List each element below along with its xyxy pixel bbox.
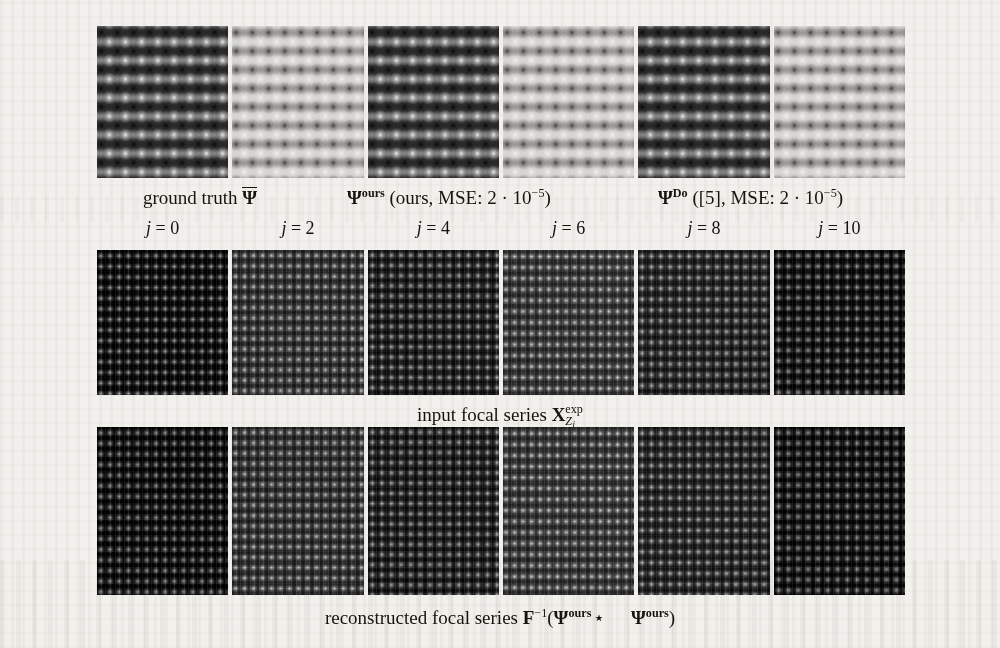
focal-index-label-j2: j = 2 xyxy=(232,218,363,239)
focal-index-label-j8: j = 8 xyxy=(638,218,769,239)
psi-symbol-term1: Ψ xyxy=(554,607,569,628)
operator-F-symbol: F xyxy=(523,607,535,628)
focal-index-label-row: j = 0 j = 2 j = 4 j = 6 j = 8 j = 10 xyxy=(97,218,905,239)
psi-symbol-ours: Ψ xyxy=(347,187,362,208)
grain-overlay xyxy=(503,250,634,395)
caption-ours-paren: (ours, MSE: 2 · 10 xyxy=(390,187,532,208)
psi-symbol-term2: Ψ xyxy=(631,607,646,628)
image-tile-input-j8[interactable] xyxy=(638,250,769,395)
figure-exit-wave-reconstruction: ground truth Ψ Ψours (ours, MSE: 2 · 10−… xyxy=(0,0,1000,648)
caption-reconstructed-focal-series-text: reconstructed focal series xyxy=(325,607,518,628)
grain-overlay xyxy=(638,26,769,178)
image-tile-ours-phase[interactable] xyxy=(368,26,499,178)
caption-input-focal-series-text: input focal series xyxy=(417,404,547,425)
image-tile-do-amplitude[interactable] xyxy=(774,26,905,178)
operator-X-symbol: X xyxy=(552,404,566,425)
grain-overlay xyxy=(774,26,905,178)
superscript-term2-ours: ours xyxy=(646,606,669,620)
grain-overlay xyxy=(774,250,905,395)
image-row-input-focal-series xyxy=(97,250,905,395)
grain-overlay xyxy=(97,26,228,178)
image-tile-input-j4[interactable] xyxy=(368,250,499,395)
image-tile-recon-j0[interactable] xyxy=(97,427,228,595)
grain-overlay xyxy=(638,250,769,395)
superscript-do: Do xyxy=(673,186,688,200)
grain-overlay xyxy=(638,427,769,595)
image-tile-recon-j8[interactable] xyxy=(638,427,769,595)
image-tile-input-j0[interactable] xyxy=(97,250,228,395)
grain-overlay xyxy=(97,250,228,395)
grain-overlay xyxy=(368,250,499,395)
grain-overlay xyxy=(232,250,363,395)
image-row-exit-waves xyxy=(97,26,905,178)
exponent-minus5-do: −5 xyxy=(824,186,837,200)
focal-index-label-j4: j = 4 xyxy=(368,218,499,239)
image-tile-ours-amplitude[interactable] xyxy=(503,26,634,178)
caption-ground-truth: ground truth Ψ xyxy=(143,187,257,207)
image-tile-gt-phase[interactable] xyxy=(97,26,228,178)
caption-ground-truth-text: ground truth xyxy=(143,187,237,208)
caption-ours: Ψours (ours, MSE: 2 · 10−5) xyxy=(347,187,551,207)
image-tile-gt-amplitude[interactable] xyxy=(232,26,363,178)
psi-bar-symbol: Ψ xyxy=(242,187,257,207)
image-row-reconstructed-focal-series xyxy=(97,427,905,595)
psi-symbol-do: Ψ xyxy=(658,187,673,208)
grain-overlay xyxy=(368,26,499,178)
focal-index-label-j6: j = 6 xyxy=(503,218,634,239)
grain-overlay xyxy=(774,427,905,595)
superscript-term1-ours: ours xyxy=(568,606,591,620)
focal-index-label-j0: j = 0 xyxy=(97,218,228,239)
image-tile-recon-j6[interactable] xyxy=(503,427,634,595)
star-operator-icon: ⋆ xyxy=(593,607,605,628)
grain-overlay xyxy=(97,427,228,595)
image-tile-input-j10[interactable] xyxy=(774,250,905,395)
image-tile-do-phase[interactable] xyxy=(638,26,769,178)
superscript-ours: ours xyxy=(362,186,385,200)
grain-overlay xyxy=(368,427,499,595)
grain-overlay xyxy=(232,427,363,595)
caption-do: ΨDo ([5], MSE: 2 · 10−5) xyxy=(658,187,843,207)
caption-ours-close: ) xyxy=(544,187,550,208)
grain-overlay xyxy=(503,427,634,595)
close-paren: ) xyxy=(669,607,675,628)
caption-do-paren: ([5], MSE: 2 · 10 xyxy=(692,187,823,208)
caption-reconstructed-focal-series: reconstructed focal series F−1(Ψours ⋆Ψo… xyxy=(0,606,1000,629)
grain-overlay xyxy=(503,26,634,178)
grain-overlay xyxy=(232,26,363,178)
image-tile-recon-j2[interactable] xyxy=(232,427,363,595)
image-tile-recon-j10[interactable] xyxy=(774,427,905,595)
caption-do-close: ) xyxy=(837,187,843,208)
focal-index-label-j10: j = 10 xyxy=(774,218,905,239)
superscript-minus1: −1 xyxy=(534,606,547,620)
exponent-minus5-ours: −5 xyxy=(532,186,545,200)
image-tile-input-j2[interactable] xyxy=(232,250,363,395)
image-tile-recon-j4[interactable] xyxy=(368,427,499,595)
image-tile-input-j6[interactable] xyxy=(503,250,634,395)
